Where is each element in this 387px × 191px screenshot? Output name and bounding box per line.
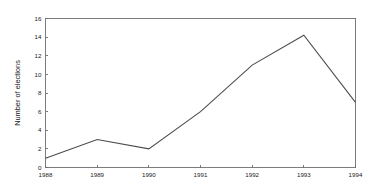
x-tick-label: 1992 <box>245 171 259 178</box>
y-tick-label: 8 <box>38 89 42 96</box>
y-tick-label: 4 <box>38 126 42 133</box>
x-tick-label: 1989 <box>90 171 104 178</box>
chart-background <box>0 0 387 191</box>
line-chart: 0246810121416 19881989199019911992199319… <box>0 0 387 191</box>
y-axis-title: Number of elections <box>13 60 22 126</box>
y-tick-label: 6 <box>38 108 42 115</box>
x-tick-label: 1988 <box>39 171 53 178</box>
chart-canvas: 0246810121416 19881989199019911992199319… <box>0 0 387 191</box>
x-tick-label: 1994 <box>349 171 363 178</box>
x-tick-label: 1991 <box>194 171 208 178</box>
y-tick-label: 14 <box>35 33 42 40</box>
y-tick-label: 10 <box>35 71 42 78</box>
x-tick-label: 1993 <box>297 171 311 178</box>
x-tick-label: 1990 <box>142 171 156 178</box>
y-tick-label: 2 <box>38 145 42 152</box>
y-tick-label: 16 <box>35 15 42 22</box>
y-tick-label: 12 <box>35 52 42 59</box>
